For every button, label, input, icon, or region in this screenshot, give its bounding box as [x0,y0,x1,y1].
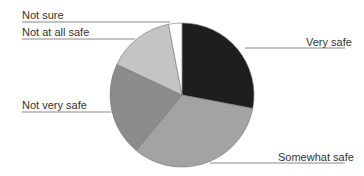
label-very-safe: Very safe [306,36,352,48]
pie-slice-very-safe [182,23,254,108]
label-somewhat-safe: Somewhat safe [278,151,354,163]
pie-slices [110,23,254,167]
label-not-sure: Not sure [22,9,64,21]
label-not-at-all-safe: Not at all safe [22,26,89,38]
label-not-very-safe: Not very safe [22,99,87,111]
